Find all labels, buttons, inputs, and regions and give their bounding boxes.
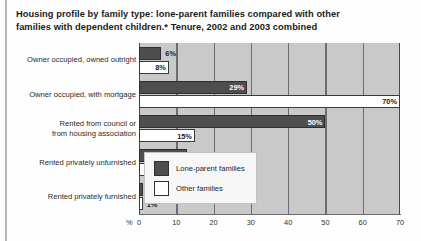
bar-value-label: 8% — [155, 63, 166, 72]
x-tick-70: 70 — [388, 218, 412, 227]
x-tick-60: 60 — [351, 218, 375, 227]
chart-title-line-1: Housing profile by family type: lone-par… — [16, 8, 408, 21]
bar-lone-parent-2: 50% — [139, 115, 325, 128]
bar-other-2: 15% — [139, 129, 195, 142]
gridline-50 — [325, 43, 326, 214]
x-tick-30: 30 — [239, 218, 263, 227]
bar-lone-parent-0: 6% — [139, 47, 161, 60]
x-tick-40: 40 — [276, 218, 300, 227]
bar-other-4: 1% — [139, 197, 143, 210]
legend-label-lone-parent: Lone-parent families — [176, 164, 245, 173]
bar-other-1: 70% — [139, 95, 400, 108]
bar-rect — [139, 47, 161, 60]
bar-rect — [139, 183, 143, 196]
gridline-40 — [288, 43, 289, 214]
category-label-1: Owner occupied, with mortgage — [0, 90, 136, 100]
chart-plot-region: Owner occupied, owned outrightOwner occu… — [0, 40, 421, 241]
category-label-line-1: Rented from council or — [4, 119, 136, 129]
x-tick-10: 10 — [164, 218, 188, 227]
chart-title: Housing profile by family type: lone-par… — [16, 8, 408, 34]
bar-value-label: 29% — [229, 83, 244, 92]
bar-value-label: 15% — [177, 131, 192, 140]
category-label-line-2: from housing association — [4, 129, 136, 139]
bar-value-label: 6% — [165, 49, 176, 58]
bar-rect — [139, 95, 400, 108]
legend-swatch-light-icon — [154, 181, 169, 196]
bar-rect — [139, 115, 325, 128]
chart-figure: Housing profile by family type: lone-par… — [0, 0, 421, 241]
chart-legend: Lone-parent families Other families — [144, 152, 257, 204]
x-tick-50: 50 — [313, 218, 337, 227]
bar-value-label: 70% — [382, 97, 397, 106]
bar-rect — [139, 197, 143, 210]
legend-label-other: Other families — [176, 184, 223, 193]
category-label-4: Rented privately furnished — [0, 192, 136, 202]
category-label-2: Rented from council orfrom housing assoc… — [0, 119, 136, 138]
x-tick-20: 20 — [202, 218, 226, 227]
category-label-0: Owner occupied, owned outright — [0, 55, 136, 65]
chart-title-line-2: families with dependent children.* Tenur… — [16, 21, 408, 34]
bar-lone-parent-4: 1% — [139, 183, 143, 196]
bar-lone-parent-1: 29% — [139, 81, 247, 94]
legend-swatch-dark-icon — [154, 161, 169, 176]
x-axis-line — [139, 214, 401, 215]
gridline-60 — [363, 43, 364, 214]
category-label-line-1: Owner occupied, with mortgage — [4, 90, 136, 100]
category-label-line-1: Rented privately furnished — [4, 192, 136, 202]
category-label-3: Rented privately unfurnished — [0, 158, 136, 168]
percent-symbol: % — [126, 218, 133, 227]
category-label-line-1: Owner occupied, owned outright — [4, 55, 136, 65]
bar-value-label: 50% — [308, 117, 323, 126]
category-label-line-1: Rented privately unfurnished — [4, 158, 136, 168]
bar-other-0: 8% — [139, 61, 169, 74]
